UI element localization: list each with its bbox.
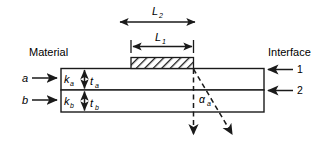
L1-label: L bbox=[155, 31, 161, 43]
angle-a-subscript: a bbox=[207, 100, 211, 107]
dimension-L1: L 1 bbox=[131, 31, 194, 53]
interface-1-label: 1 bbox=[297, 63, 303, 75]
L1-subscript: 1 bbox=[162, 38, 166, 45]
conductivity-b-subscript: b bbox=[70, 102, 74, 109]
interface-section: Interface 1 2 bbox=[268, 46, 311, 96]
dimension-L2: L 2 bbox=[120, 5, 195, 22]
thickness-a-subscript: a bbox=[95, 82, 99, 89]
thickness-b-subscript: b bbox=[95, 104, 99, 111]
conductivity-a-subscript: a bbox=[70, 80, 74, 87]
hatched-source-rect bbox=[131, 58, 194, 69]
cross-section-diagram: L 2 L 1 Material a b bbox=[0, 0, 329, 147]
figure-container: L 2 L 1 Material a b bbox=[0, 0, 329, 147]
L2-label: L bbox=[152, 5, 158, 17]
angle-a-label: α bbox=[199, 93, 206, 105]
interface-2-label: 2 bbox=[297, 84, 303, 96]
layer-a-label: a bbox=[22, 72, 28, 84]
source-block bbox=[131, 58, 194, 69]
interface-heading: Interface bbox=[268, 46, 311, 58]
L2-subscript: 2 bbox=[158, 12, 163, 19]
layer-b-label: b bbox=[22, 94, 28, 106]
material-heading: Material bbox=[29, 46, 68, 58]
